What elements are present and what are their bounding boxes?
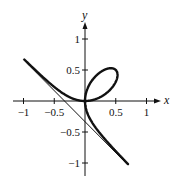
- y-tick-label: −0.5: [60, 126, 80, 138]
- y-tick-label: 1: [75, 33, 81, 45]
- folium-chart: x y −1−0.50.51 10.5−0.5−1: [0, 0, 180, 182]
- y-tick-label: 0.5: [66, 64, 80, 76]
- x-tick-label: −0.5: [44, 106, 64, 118]
- y-tick-label: −1: [68, 157, 80, 169]
- axes: x y −1−0.50.51 10.5−0.5−1: [13, 8, 170, 176]
- x-axis-arrow-icon: [154, 99, 161, 104]
- x-axis-label: x: [163, 93, 170, 107]
- y-axis-label: y: [81, 8, 88, 22]
- x-tick-label: 1: [144, 106, 150, 118]
- y-axis-arrow-icon: [83, 22, 88, 29]
- x-tick-label: −1: [18, 106, 30, 118]
- x-tick-label: 0.5: [109, 106, 123, 118]
